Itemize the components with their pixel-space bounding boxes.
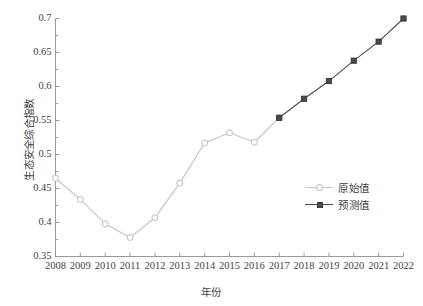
legend-item-predicted: 预测值 [305, 196, 370, 213]
y-axis-title: 生态安全综合指数 [21, 60, 36, 220]
chart-container: 0.350.40.450.50.550.60.650.7 20082009201… [0, 0, 423, 306]
legend-marker-predicted-icon [305, 199, 333, 211]
legend-label-original: 原始值 [338, 180, 370, 195]
x-tick-label: 2022 [384, 261, 423, 272]
y-tick-label: 0.6 [38, 81, 51, 92]
legend-label-predicted: 预测值 [338, 197, 370, 212]
y-tick-label: 0.5 [38, 149, 51, 160]
y-tick-label: 0.65 [33, 47, 51, 58]
legend-marker-original-icon [305, 182, 333, 194]
legend-item-original: 原始值 [305, 179, 370, 196]
x-axis-title: 年份 [0, 284, 423, 299]
y-tick-label: 0.45 [33, 183, 51, 194]
y-tick-label: 0.4 [38, 217, 51, 228]
y-tick-label: 0.7 [38, 13, 51, 24]
y-tick-label: 0.55 [33, 115, 51, 126]
chart-legend: 原始值 预测值 [305, 179, 370, 213]
